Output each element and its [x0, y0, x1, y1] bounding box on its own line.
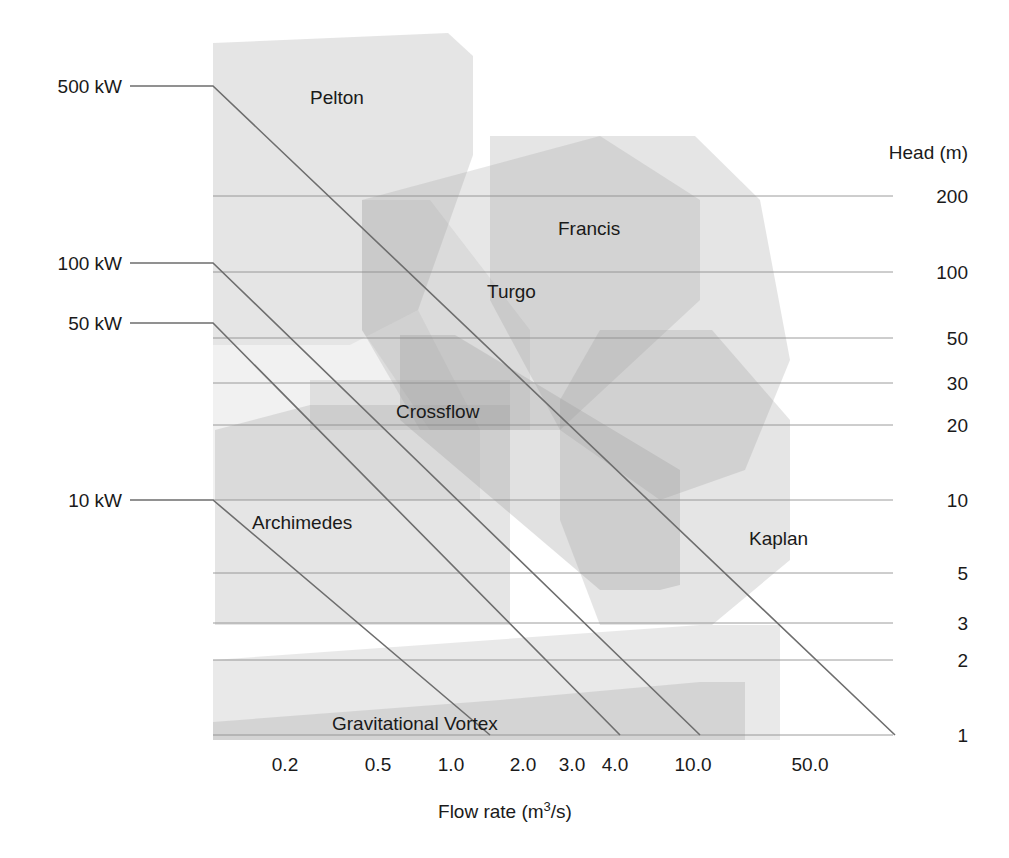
region-label-kaplan: Kaplan — [749, 528, 808, 549]
power-labels: 500 kW 100 kW 50 kW 10 kW — [58, 76, 122, 511]
flow-axis-title-base: Flow rate (m — [438, 801, 544, 822]
flow-tick-0-5: 0.5 — [365, 754, 391, 775]
flow-axis-title: Flow rate (m3/s) — [438, 799, 572, 823]
region-label-turgo: Turgo — [487, 281, 536, 302]
flow-tick-0-2: 0.2 — [272, 754, 298, 775]
region-label-francis: Francis — [558, 218, 620, 239]
head-tick-20: 20 — [947, 415, 968, 436]
region-label-gravitational-vortex: Gravitational Vortex — [332, 713, 498, 734]
head-axis-title: Head (m) — [889, 142, 968, 163]
power-label-10kw: 10 kW — [68, 490, 122, 511]
head-tick-5: 5 — [957, 563, 968, 584]
chart-canvas: 500 kW 100 kW 50 kW 10 kW Head (m) 200 1… — [0, 0, 1009, 858]
region-label-crossflow: Crossflow — [396, 401, 480, 422]
head-tick-2: 2 — [957, 650, 968, 671]
head-tick-3: 3 — [957, 613, 968, 634]
head-tick-1: 1 — [957, 725, 968, 746]
power-label-500kw: 500 kW — [58, 76, 122, 97]
flow-tick-50-0: 50.0 — [792, 754, 829, 775]
turbine-selection-chart: 500 kW 100 kW 50 kW 10 kW Head (m) 200 1… — [0, 0, 1009, 858]
flow-tick-10-0: 10.0 — [675, 754, 712, 775]
turbine-regions — [213, 33, 790, 740]
flow-axis-title-superscript: 3 — [544, 799, 551, 814]
region-label-pelton: Pelton — [310, 87, 364, 108]
region-label-archimedes: Archimedes — [252, 512, 352, 533]
flow-tick-2-0: 2.0 — [510, 754, 536, 775]
flow-tick-3-0: 3.0 — [559, 754, 585, 775]
flow-tick-1-0: 1.0 — [438, 754, 464, 775]
head-axis-labels: Head (m) 200 100 50 30 20 10 5 3 2 1 — [889, 142, 968, 746]
head-tick-10: 10 — [947, 490, 968, 511]
flow-tick-4-0: 4.0 — [602, 754, 628, 775]
head-tick-30: 30 — [947, 373, 968, 394]
flow-axis-title-tail: /s) — [551, 801, 572, 822]
power-label-100kw: 100 kW — [58, 253, 122, 274]
head-tick-50: 50 — [947, 328, 968, 349]
head-tick-200: 200 — [936, 186, 968, 207]
flow-axis-labels: 0.2 0.5 1.0 2.0 3.0 4.0 10.0 50.0 — [272, 754, 829, 775]
power-label-50kw: 50 kW — [68, 313, 122, 334]
head-tick-100: 100 — [936, 262, 968, 283]
